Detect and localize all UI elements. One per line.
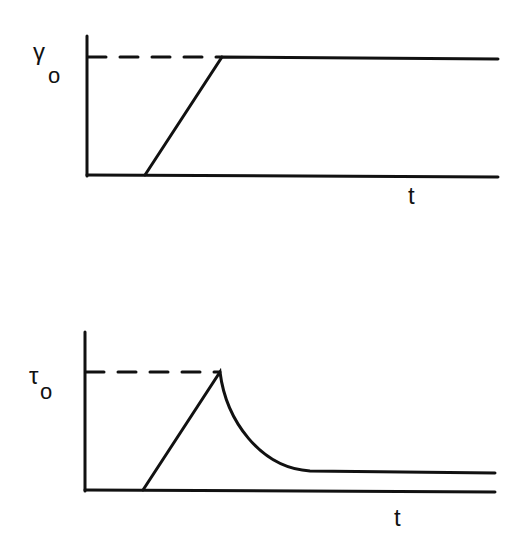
top-strain-curve: [145, 57, 498, 175]
bottom-y-label: τ: [29, 364, 38, 388]
bottom-stress-curve: [143, 372, 495, 490]
top-x-label: t: [408, 184, 415, 208]
top-y-label-sub: o: [48, 65, 60, 87]
bottom-x-label: t: [394, 506, 401, 530]
diagram-canvas: [0, 0, 523, 536]
top-x-axis: [87, 175, 498, 177]
top-y-label: γ: [33, 40, 45, 64]
bottom-x-axis: [85, 490, 495, 492]
bottom-y-label-sub: o: [40, 381, 52, 403]
